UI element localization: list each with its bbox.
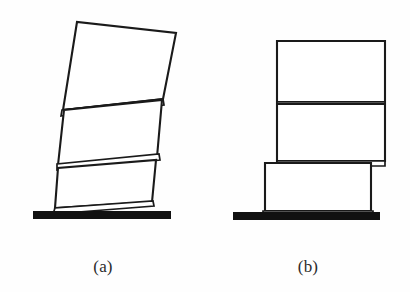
panel-b-middle-block [277,104,385,161]
panel-b-caption: (b) [298,257,318,276]
panel-a-bottom-block [55,160,156,208]
panel-b-top-block [277,41,385,102]
block-stack-diagram: (a) (b) [0,0,410,292]
figure-root: (a) (b) [0,0,410,292]
panel-a-top-block [63,22,176,110]
panel-b-bottom-block [265,163,371,211]
panel-a-ground-bar [33,211,171,219]
panel-b-ground-bar [233,212,380,220]
panel-a-caption: (a) [93,257,112,276]
